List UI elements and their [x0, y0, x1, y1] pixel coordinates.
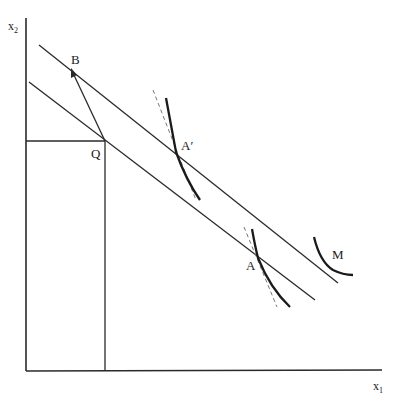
y-axis-label: x2 [8, 19, 18, 35]
point-b-label: B [71, 52, 80, 67]
x-axis-label: x1 [373, 379, 383, 395]
q-to-b-arrow [73, 73, 105, 141]
point-a-label: A [246, 258, 256, 273]
diagram-canvas: x2 x1 B Q A′ A M [0, 0, 398, 398]
upper-budget-line [39, 45, 338, 283]
point-q-label: Q [91, 146, 101, 161]
point-a-prime-label: A′ [181, 138, 193, 153]
point-m-label: M [332, 247, 344, 262]
lower-budget-line [29, 82, 315, 300]
arrowhead-icon [71, 68, 77, 78]
x-axis [26, 370, 382, 371]
